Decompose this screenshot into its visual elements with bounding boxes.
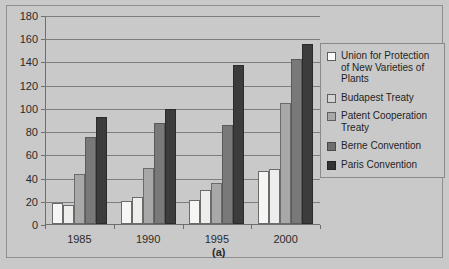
legend-swatch-icon xyxy=(327,142,336,151)
legend-swatch-icon xyxy=(327,112,336,121)
legend-swatch-icon xyxy=(327,161,336,170)
y-axis-tick-mark xyxy=(41,109,45,110)
chart-caption: (a) xyxy=(212,246,225,258)
bar xyxy=(189,200,200,224)
y-axis-tick-label: 140 xyxy=(20,56,38,68)
chart-frame: 020406080100120140160180 198519901995200… xyxy=(6,5,443,258)
y-axis-tick-label: 60 xyxy=(26,149,38,161)
y-axis-tick-mark xyxy=(41,62,45,63)
bar xyxy=(132,197,143,224)
bar xyxy=(291,59,302,224)
legend-item[interactable]: Paris Convention xyxy=(327,159,439,171)
bar xyxy=(280,103,291,224)
y-axis-tick-mark xyxy=(41,179,45,180)
y-axis-tick-label: 100 xyxy=(20,103,38,115)
y-axis-tick-mark xyxy=(41,39,45,40)
y-axis-tick-mark xyxy=(41,202,45,203)
bar-group xyxy=(52,15,107,224)
plot-area: 020406080100120140160180 198519901995200… xyxy=(45,16,320,225)
legend-item-label: Berne Convention xyxy=(341,140,421,152)
legend-item[interactable]: Patent Cooperation Treaty xyxy=(327,110,439,133)
x-axis-tick-label: 2000 xyxy=(273,233,297,245)
bar-group xyxy=(258,15,313,224)
legend-item-label: Patent Cooperation Treaty xyxy=(341,110,439,133)
x-axis-tick-label: 1995 xyxy=(205,233,229,245)
y-axis-tick-label: 0 xyxy=(32,219,38,231)
bar-group xyxy=(121,15,176,224)
legend-item-label: Budapest Treaty xyxy=(341,92,414,104)
x-axis-tick-mark xyxy=(251,225,252,229)
legend-item[interactable]: Union for Protection of New Varieties of… xyxy=(327,50,439,85)
bar xyxy=(233,65,244,224)
bar-group xyxy=(189,15,244,224)
y-axis-tick-label: 20 xyxy=(26,196,38,208)
y-axis-tick-label: 160 xyxy=(20,33,38,45)
y-axis-tick-mark xyxy=(41,86,45,87)
bar xyxy=(63,205,74,224)
legend-item[interactable]: Budapest Treaty xyxy=(327,92,439,104)
x-axis-tick-label: 1985 xyxy=(67,233,91,245)
x-axis-tick-mark xyxy=(45,225,46,229)
bar xyxy=(154,123,165,224)
x-axis-tick-label: 1990 xyxy=(136,233,160,245)
bar xyxy=(74,174,85,224)
bar xyxy=(200,190,211,224)
legend-swatch-icon xyxy=(327,94,336,103)
x-axis-tick-mark xyxy=(320,225,321,229)
y-axis-tick-mark xyxy=(41,155,45,156)
bar xyxy=(302,44,313,224)
y-axis-tick-mark xyxy=(41,132,45,133)
y-axis-tick-label: 40 xyxy=(26,173,38,185)
bar xyxy=(211,183,222,224)
bar xyxy=(143,168,154,224)
x-axis-tick-mark xyxy=(114,225,115,229)
y-axis-tick-label: 80 xyxy=(26,126,38,138)
legend-swatch-icon xyxy=(327,52,336,61)
legend-item[interactable]: Berne Convention xyxy=(327,140,439,152)
x-axis-tick-mark xyxy=(183,225,184,229)
bar xyxy=(165,109,176,224)
bar xyxy=(258,171,269,224)
bar xyxy=(222,125,233,224)
bar xyxy=(96,117,107,224)
bar xyxy=(121,201,132,224)
chart-legend: Union for Protection of New Varieties of… xyxy=(320,43,445,178)
bar xyxy=(269,169,280,224)
y-axis-tick-label: 180 xyxy=(20,10,38,22)
legend-item-label: Union for Protection of New Varieties of… xyxy=(341,50,439,85)
y-axis-line xyxy=(45,16,46,225)
legend-item-label: Paris Convention xyxy=(341,159,417,171)
bar xyxy=(85,137,96,224)
y-axis-tick-label: 120 xyxy=(20,80,38,92)
y-axis-tick-mark xyxy=(41,16,45,17)
bar xyxy=(52,203,63,224)
